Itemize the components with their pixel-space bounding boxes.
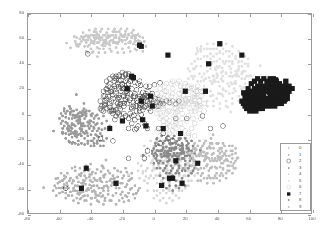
y-tick-mark	[28, 39, 31, 40]
y-tick-mark-right	[308, 89, 311, 90]
x-tick-label: 0	[152, 217, 154, 221]
y-tick-mark	[28, 115, 31, 116]
plot-axes-frame	[27, 13, 312, 214]
y-tick-mark	[28, 190, 31, 191]
x-tick-mark-top	[250, 210, 251, 213]
legend-marker-point-icon	[284, 204, 293, 211]
x-tick-label: -40	[87, 217, 93, 221]
x-tick-label: 100	[309, 217, 316, 221]
y-tick-mark	[28, 64, 31, 65]
y-tick-label: 0	[4, 111, 24, 115]
x-tick-label: -20	[119, 217, 125, 221]
scatter-plot-figure: -80-60-40-20020406080100 -80-60-40-20020…	[0, 0, 329, 237]
legend[interactable]: 0123456789	[280, 143, 311, 211]
y-tick-label: 80	[4, 11, 24, 15]
y-tick-mark	[28, 89, 31, 90]
x-tick-mark	[60, 14, 61, 17]
x-tick-label: 60	[246, 217, 251, 221]
y-tick-label: 40	[4, 61, 24, 65]
legend-label: 6	[299, 185, 301, 189]
y-tick-mark-right	[308, 14, 311, 15]
x-tick-mark-top	[91, 210, 92, 213]
y-tick-label: -60	[4, 187, 24, 191]
legend-label: 1	[299, 153, 301, 157]
x-tick-mark-top	[218, 210, 219, 213]
scatter-points-canvas	[28, 14, 311, 213]
legend-label: 4	[299, 172, 301, 176]
x-tick-label: 80	[278, 217, 283, 221]
y-tick-label: 20	[4, 86, 24, 90]
x-tick-mark	[155, 14, 156, 17]
x-tick-mark-top	[28, 210, 29, 213]
y-tick-mark-right	[308, 39, 311, 40]
legend-label: 5	[299, 179, 301, 183]
x-tick-label: -60	[56, 217, 62, 221]
y-tick-mark	[28, 14, 31, 15]
x-tick-mark-top	[186, 210, 187, 213]
x-tick-mark	[218, 14, 219, 17]
x-tick-label: -80	[24, 217, 30, 221]
legend-label: 8	[299, 198, 301, 202]
x-tick-mark-top	[313, 210, 314, 213]
x-tick-mark	[186, 14, 187, 17]
y-tick-mark-right	[308, 140, 311, 141]
legend-item-9[interactable]: 9	[281, 204, 310, 211]
legend-label: 0	[299, 146, 301, 150]
x-tick-mark-top	[123, 210, 124, 213]
x-tick-mark	[313, 14, 314, 17]
y-tick-label: -20	[4, 137, 24, 141]
y-tick-label: 60	[4, 36, 24, 40]
x-tick-label: 20	[183, 217, 188, 221]
y-tick-mark-right	[308, 64, 311, 65]
legend-label: 7	[299, 192, 301, 196]
legend-label: 3	[299, 166, 301, 170]
x-tick-mark	[91, 14, 92, 17]
legend-label: 9	[299, 205, 301, 209]
x-tick-mark	[250, 14, 251, 17]
y-tick-mark	[28, 165, 31, 166]
x-tick-label: 40	[215, 217, 220, 221]
x-tick-mark	[281, 14, 282, 17]
y-tick-label: -80	[4, 212, 24, 216]
legend-label: 2	[299, 159, 301, 163]
x-tick-mark	[123, 14, 124, 17]
x-tick-mark-top	[60, 210, 61, 213]
y-tick-label: -40	[4, 162, 24, 166]
y-tick-mark-right	[308, 115, 311, 116]
x-tick-mark-top	[155, 210, 156, 213]
y-tick-mark	[28, 140, 31, 141]
